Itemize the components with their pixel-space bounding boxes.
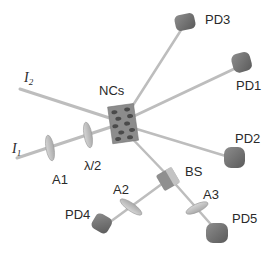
beam-to-pd1	[130, 68, 236, 118]
beam-label-i1: I1	[11, 141, 21, 158]
beam-to-pd3	[128, 27, 183, 113]
pd4-label: PD4	[65, 207, 90, 222]
pd1-label: PD1	[236, 78, 261, 93]
attenuator-a1	[44, 135, 56, 162]
pd5-label: PD5	[232, 211, 257, 226]
a3-label: A3	[203, 187, 219, 202]
photodetector-pd5	[206, 223, 228, 243]
beam-i1	[17, 124, 120, 158]
half-wave-label: λ/2	[84, 158, 101, 173]
a2-label: A2	[113, 182, 129, 197]
a1-label: A1	[52, 172, 68, 187]
nanocrystal-sample	[108, 104, 139, 144]
beam-splitter	[156, 167, 181, 192]
sample-label: NCs	[99, 83, 125, 98]
half-wave-plate	[82, 122, 94, 149]
pd3-label: PD3	[205, 12, 230, 27]
optical-setup-diagram: I2 I1 NCs A1 λ/2 A2 A3 BS PD1 PD2 PD3 PD…	[0, 0, 277, 257]
photodetector-pd4	[90, 212, 114, 236]
labels: I2 I1 NCs A1 λ/2 A2 A3 BS PD1 PD2 PD3 PD…	[11, 12, 261, 226]
photodetector-pd3	[174, 12, 197, 32]
diagram-canvas: I2 I1 NCs A1 λ/2 A2 A3 BS PD1 PD2 PD3 PD…	[0, 0, 277, 257]
bs-label: BS	[185, 164, 203, 179]
pd2-label: PD2	[235, 131, 260, 146]
beam-label-i2: I2	[23, 70, 34, 87]
photodetector-pd2	[224, 147, 245, 168]
